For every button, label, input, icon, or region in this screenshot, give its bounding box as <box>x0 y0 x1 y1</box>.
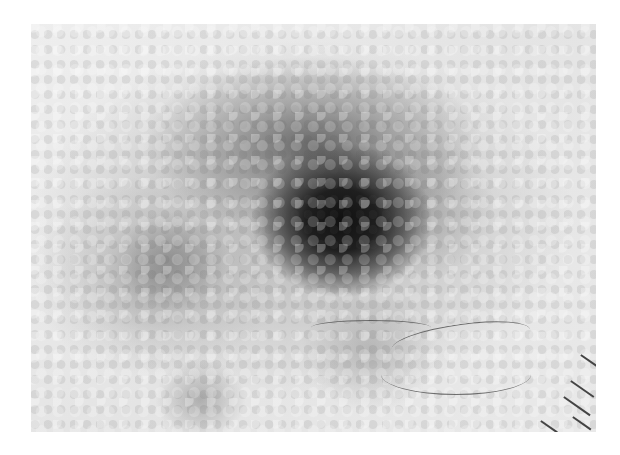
hair-strand <box>311 320 431 335</box>
hair-strand <box>381 354 531 395</box>
dermoscopy-image <box>31 24 596 432</box>
